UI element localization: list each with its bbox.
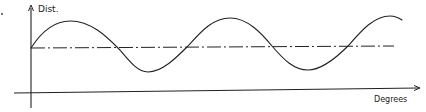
sine-wave — [31, 16, 402, 72]
mean-line — [31, 46, 394, 48]
sine-wave-diagram: Dist. Degrees — [0, 0, 426, 112]
x-axis-label: Degrees — [374, 95, 407, 104]
stray-mark — [1, 13, 3, 15]
x-axis — [14, 88, 419, 93]
y-axis-label: Dist. — [38, 4, 59, 14]
